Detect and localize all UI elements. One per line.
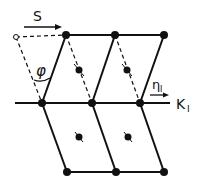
- twinning-lattice-diagram: S φ η I K I: [0, 0, 201, 185]
- shear-arrow: [24, 24, 62, 30]
- plane-subscript: I: [187, 104, 190, 114]
- direction-subscript: I: [160, 85, 162, 94]
- sheared-lattice-lines: [42, 35, 164, 103]
- angle-label: φ: [36, 62, 46, 80]
- direction-label: η: [152, 77, 160, 92]
- plane-label: K: [176, 96, 186, 112]
- original-site-open-circle: [14, 35, 19, 40]
- parent-lattice-lines: [42, 103, 164, 172]
- shear-label: S: [33, 8, 42, 24]
